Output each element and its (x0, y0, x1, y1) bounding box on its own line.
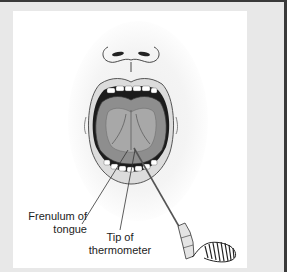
tip-label-line2: thermometer (85, 244, 155, 257)
frenulum-label: Frenulum of tongue (22, 210, 87, 236)
frenulum-label-line1: Frenulum of (22, 210, 87, 223)
nose-icon (103, 47, 159, 72)
thermometer-tip-label: Tip of thermometer (85, 231, 155, 257)
figure-frame: Frenulum of tongue Tip of thermometer (0, 0, 287, 272)
mouth-icon (85, 79, 178, 185)
tip-label-line1: Tip of (85, 231, 155, 244)
frenulum-label-line2: tongue (22, 223, 87, 236)
